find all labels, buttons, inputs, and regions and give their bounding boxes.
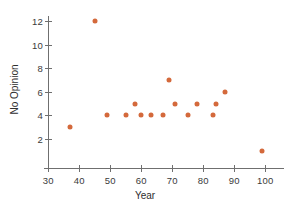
data-point — [173, 101, 178, 106]
data-point — [139, 113, 144, 118]
data-point — [123, 113, 128, 118]
data-point — [148, 113, 153, 118]
x-tick-90 — [234, 165, 235, 172]
x-tick-label: 90 — [229, 175, 240, 186]
y-tick-label: 2 — [38, 134, 43, 145]
y-tick-6 — [45, 92, 52, 93]
y-tick-12 — [45, 21, 52, 22]
x-tick-label: 40 — [74, 175, 85, 186]
scatter-plot-figure: 30405060708090100 24681012 Year No Opini… — [0, 0, 290, 210]
x-tick-label: 60 — [136, 175, 147, 186]
data-point — [161, 113, 166, 118]
data-point — [260, 148, 265, 153]
data-point — [185, 113, 190, 118]
x-tick-50 — [110, 165, 111, 172]
y-tick-label: 10 — [32, 39, 43, 50]
plot-area: 30405060708090100 24681012 Year No Opini… — [0, 0, 290, 210]
data-point — [92, 19, 97, 24]
y-tick-2 — [45, 139, 52, 140]
data-point — [213, 101, 218, 106]
y-tick-label: 6 — [38, 86, 43, 97]
y-tick-10 — [45, 45, 52, 46]
data-point — [68, 125, 73, 130]
data-point — [195, 101, 200, 106]
x-tick-label: 80 — [198, 175, 209, 186]
x-tick-40 — [79, 165, 80, 172]
x-tick-label: 70 — [167, 175, 178, 186]
y-tick-label: 12 — [32, 16, 43, 27]
x-tick-30 — [48, 165, 49, 172]
y-tick-8 — [45, 68, 52, 69]
y-tick-4 — [45, 115, 52, 116]
x-axis-title: Year — [0, 190, 290, 201]
data-point — [105, 113, 110, 118]
data-point — [133, 101, 138, 106]
x-tick-80 — [203, 165, 204, 172]
x-tick-label: 100 — [257, 175, 273, 186]
data-point — [210, 113, 215, 118]
data-point — [223, 89, 228, 94]
y-tick-label: 8 — [38, 63, 43, 74]
y-axis-title: No Opinion — [9, 50, 20, 130]
x-tick-60 — [141, 165, 142, 172]
x-tick-100 — [265, 165, 266, 172]
x-tick-label: 30 — [43, 175, 54, 186]
data-point — [167, 78, 172, 83]
x-tick-label: 50 — [105, 175, 116, 186]
y-tick-label: 4 — [38, 110, 43, 121]
x-tick-70 — [172, 165, 173, 172]
